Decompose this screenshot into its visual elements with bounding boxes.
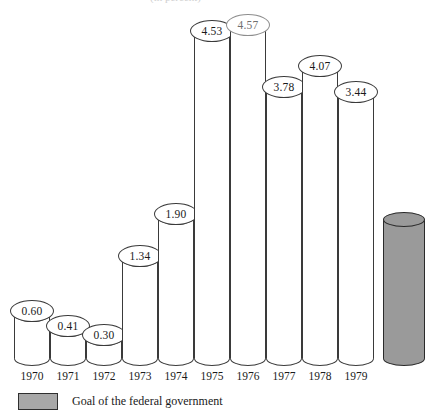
bar-cylinder-1973 <box>122 252 158 366</box>
bar-body <box>230 23 266 359</box>
bar-value-label-1970: 0.60 <box>10 300 54 322</box>
chart-legend: Goal of the federal government <box>18 393 223 410</box>
bar-cylinder-1979 <box>338 82 374 366</box>
bar-value-label-1976: 4.57 <box>226 14 270 36</box>
bar-value-label-1974: 1.90 <box>154 203 198 225</box>
chart-title: (in percent) <box>150 0 410 3</box>
bar-value-label-1979: 3.44 <box>334 81 378 103</box>
legend-label: Goal of the federal government <box>72 394 223 409</box>
legend-swatch <box>18 393 58 410</box>
cylinder-bar-chart: (in percent) 0.6019700.4119710.3019721.3… <box>0 0 438 415</box>
bar-body <box>266 84 302 359</box>
bar-body <box>158 217 194 359</box>
goal-cylinder <box>383 212 425 366</box>
bar-body <box>122 259 158 359</box>
bar-value-label-1973: 1.34 <box>118 245 162 267</box>
goal-body <box>383 219 425 359</box>
bar-cylinder-1977 <box>266 77 302 366</box>
x-axis-year-1979: 1979 <box>334 370 378 382</box>
bar-value-label-1978: 4.07 <box>298 55 342 77</box>
goal-top-ellipse <box>383 212 425 227</box>
bar-cylinder-1978 <box>302 56 338 366</box>
bar-cylinder-1976 <box>230 16 266 366</box>
bar-value-label-1977: 3.78 <box>262 76 306 98</box>
bar-body <box>194 29 230 359</box>
bar-cylinder-1975 <box>194 22 230 366</box>
bar-cylinder-1974 <box>158 210 194 366</box>
bar-value-label-1972: 0.30 <box>82 324 126 346</box>
bar-body <box>338 89 374 359</box>
bar-body <box>302 63 338 359</box>
